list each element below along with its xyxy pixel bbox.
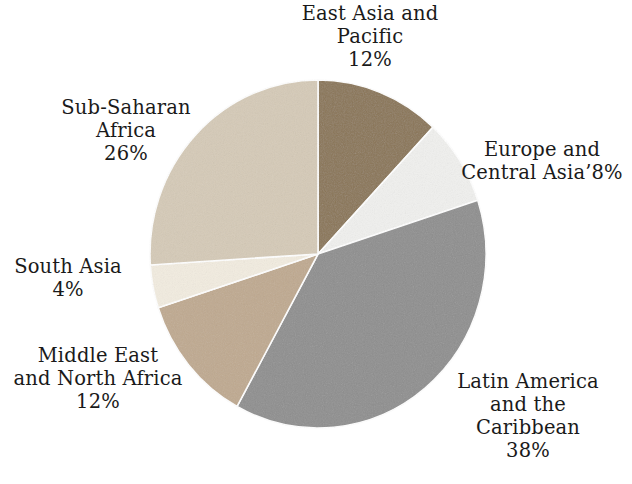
slice-label-text-line1: Europe and [452,138,632,161]
slice-label-text-line1: South Asia [0,255,136,278]
slice-label-text-line2: and North Africa [0,367,196,390]
slice-label-text-line2: Africa [20,119,232,142]
slice-value-east-asia-and-pacific: 12% [255,48,485,71]
slice-value-sub-saharan-africa: 26% [20,142,232,165]
slice-label-text-line1: Latin America [430,370,626,393]
slice-label-text-line2: Pacific [255,25,485,48]
slice-label-europe-and-central-asia: Europe and Central Asia’8% [452,138,632,184]
slice-label-text-line2-with-value: Central Asia’8% [452,161,632,184]
slice-label-sub-saharan-africa: Sub-Saharan Africa 26% [20,96,232,165]
slice-label-text-line1: Sub-Saharan [20,96,232,119]
slice-label-text-line2: and the [430,393,626,416]
slice-label-middle-east-and-north-africa: Middle East and North Africa 12% [0,344,196,413]
slice-label-text-line3: Caribbean [430,416,626,439]
slice-label-latin-america-and-the-caribbean: Latin America and the Caribbean 38% [430,370,626,462]
slice-label-text-line1: Middle East [0,344,196,367]
slice-label-text-line1: East Asia and [255,2,485,25]
pie-chart-figure: East Asia and Pacific 12% Europe and Cen… [0,0,632,484]
slice-label-south-asia: South Asia 4% [0,255,136,301]
slice-value-latin-america-and-the-caribbean: 38% [430,439,626,462]
slice-value-south-asia: 4% [0,278,136,301]
slice-label-east-asia-and-pacific: East Asia and Pacific 12% [255,2,485,71]
slice-value-middle-east-and-north-africa: 12% [0,390,196,413]
